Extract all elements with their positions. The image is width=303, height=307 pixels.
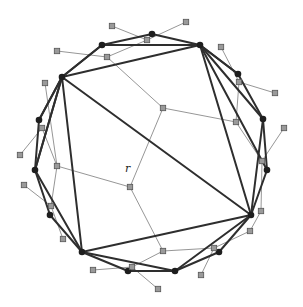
tree-node-square — [211, 245, 216, 250]
tree-edge — [112, 26, 147, 40]
tree-node-square — [281, 125, 286, 130]
tree-node-square — [48, 203, 53, 208]
vertex-dot — [248, 212, 255, 219]
diagonal-edge — [200, 45, 263, 119]
vertex-dot — [172, 268, 179, 275]
tree-node-square — [109, 23, 114, 28]
tree-node-square — [39, 125, 44, 130]
vertex-dot — [235, 71, 242, 78]
tree-node-square — [42, 80, 47, 85]
tree-node-square — [259, 158, 264, 163]
tree-node-square — [144, 37, 149, 42]
vertex-dot — [149, 31, 156, 38]
vertex-dot — [264, 167, 271, 174]
tree-node-square — [21, 182, 26, 187]
diagonal-edge — [200, 45, 251, 215]
tree-node-square — [160, 105, 165, 110]
vertex-dot — [197, 42, 204, 49]
diagonal-edge — [62, 77, 251, 215]
diagonal-edge — [62, 77, 82, 252]
tree-node-square — [129, 264, 134, 269]
dual-tree-nodes — [17, 19, 286, 291]
dual-tree-edges — [20, 22, 284, 289]
tree-node-square — [198, 272, 203, 277]
vertex-dot — [260, 116, 267, 123]
tree-edge — [57, 51, 107, 57]
tree-node-square — [183, 19, 188, 24]
tree-node-square — [104, 54, 109, 59]
tree-edge — [163, 108, 236, 122]
tree-node-square — [127, 184, 132, 189]
tree-edge — [42, 128, 57, 166]
vertex-dot — [99, 42, 106, 49]
vertex-dot — [59, 74, 66, 81]
tree-node-square — [90, 267, 95, 272]
vertex-dot — [32, 167, 39, 174]
polygon-edge — [50, 215, 82, 252]
vertex-dot — [47, 212, 54, 219]
tree-node-square — [160, 248, 165, 253]
diagram-canvas: r — [0, 0, 303, 307]
vertex-dot — [36, 117, 43, 124]
vertex-dot — [79, 249, 86, 256]
tree-edge — [201, 248, 214, 275]
tree-edge — [57, 166, 130, 187]
tree-node-square — [272, 90, 277, 95]
polygon-edge — [82, 252, 128, 271]
tree-node-square — [155, 286, 160, 291]
tree-node-square — [54, 48, 59, 53]
triangulation-diagram: r — [0, 0, 303, 307]
tree-node-square — [17, 152, 22, 157]
tree-node-square — [247, 228, 252, 233]
tree-node-square — [236, 79, 241, 84]
tree-node-square — [258, 208, 263, 213]
tree-node-square — [218, 44, 223, 49]
tree-node-square — [233, 119, 238, 124]
polygon-edge — [152, 34, 200, 45]
tree-node-square — [54, 163, 59, 168]
tree-node-square — [60, 236, 65, 241]
root-label: r — [125, 162, 131, 175]
